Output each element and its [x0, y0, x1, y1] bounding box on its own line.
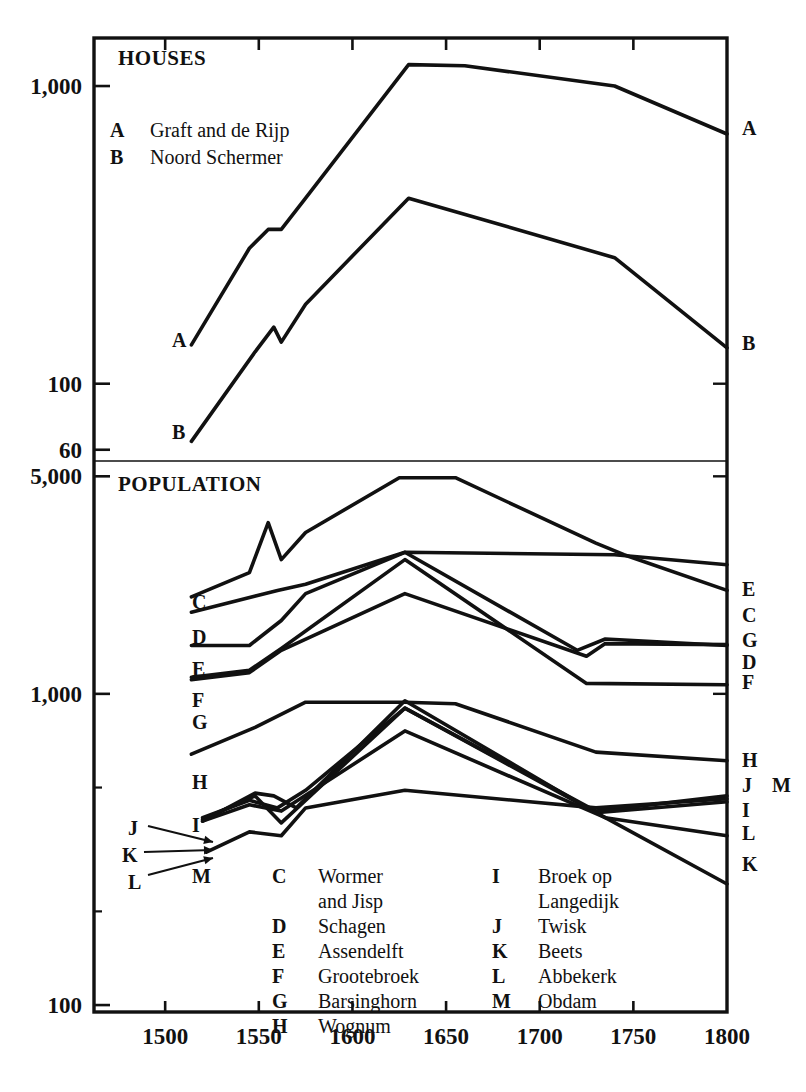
y-pop-100-label: 100 [48, 993, 83, 1018]
pop-legend-name-K: Beets [538, 941, 582, 961]
left-label-pop-M: M [192, 866, 211, 886]
pop-legend-key-D: D [272, 916, 286, 936]
x-tick-label-1800: 1800 [704, 1024, 750, 1049]
y-pop-1000-label: 1,000 [30, 682, 82, 707]
panel-title-houses: HOUSES [118, 48, 206, 69]
series-line-L [203, 731, 727, 836]
houses-legend-key-B: B [110, 147, 123, 167]
pop-legend-name-C: Wormer [318, 866, 383, 886]
left-label-pop-J: J [128, 818, 138, 838]
y-houses-1000-label: 1,000 [30, 74, 82, 99]
left-label-houses-A: A [172, 330, 186, 350]
houses-legend-name-A: Graft and de Rijp [150, 120, 289, 140]
arrow-J [148, 826, 213, 844]
right-label-pop-M: M [772, 775, 791, 795]
right-label-pop-L: L [742, 823, 755, 843]
left-label-pop-I: I [192, 815, 200, 835]
chart-figure: 15001550160016501700175018001,000100605,… [0, 0, 806, 1092]
pop-legend-key-G: G [272, 991, 288, 1011]
right-label-houses-A: A [742, 118, 756, 138]
left-label-pop-K: K [122, 845, 138, 865]
pop-legend-name-G: Barsinghorn [318, 991, 417, 1011]
y-pop-5000-label: 5,000 [30, 464, 82, 489]
pop-legend-name2-C: and Jisp [318, 891, 383, 911]
right-label-pop-G: G [742, 630, 758, 650]
left-label-pop-C: C [192, 592, 206, 612]
pop-legend-key-L: L [492, 966, 505, 986]
pop-legend-key-M: M [492, 991, 511, 1011]
left-label-pop-F: F [192, 690, 204, 710]
pop-legend-name2-I: Langedijk [538, 891, 619, 911]
pop-legend-name-H: Wognum [318, 1016, 391, 1036]
left-label-pop-E: E [192, 659, 205, 679]
right-label-pop-J: J [742, 775, 752, 795]
left-label-houses-B: B [172, 422, 185, 442]
pop-legend-key-E: E [272, 941, 285, 961]
pop-legend-name-E: Assendelft [318, 941, 404, 961]
right-label-pop-C: C [742, 605, 756, 625]
y-houses-100-label: 100 [48, 372, 83, 397]
right-label-pop-F: F [742, 672, 754, 692]
series-line-E [191, 552, 727, 645]
y-houses-60-label: 60 [59, 438, 82, 463]
pop-legend-name-F: Grootebroek [318, 966, 419, 986]
series-line-A [191, 65, 727, 345]
pop-legend-key-F: F [272, 966, 284, 986]
pop-legend-key-H: H [272, 1016, 288, 1036]
x-tick-label-1750: 1750 [610, 1024, 656, 1049]
x-tick-label-1700: 1700 [517, 1024, 563, 1049]
left-label-pop-H: H [192, 772, 208, 792]
right-label-pop-K: K [742, 854, 758, 874]
houses-legend-name-B: Noord Schermer [150, 147, 283, 167]
left-label-pop-D: D [192, 627, 206, 647]
x-tick-label-1500: 1500 [142, 1024, 188, 1049]
pop-legend-key-J: J [492, 916, 502, 936]
series-line-G [191, 594, 727, 680]
pop-legend-key-I: I [492, 866, 500, 886]
pop-legend-name-M: Obdam [538, 991, 597, 1011]
right-label-pop-I: I [742, 800, 750, 820]
x-tick-label-1650: 1650 [423, 1024, 469, 1049]
right-label-houses-B: B [742, 333, 755, 353]
houses-legend-key-A: A [110, 120, 124, 140]
arrow-K [144, 846, 213, 854]
right-label-pop-D: D [742, 652, 756, 672]
pop-legend-key-C: C [272, 866, 286, 886]
right-label-pop-E: E [742, 579, 755, 599]
pop-legend-name-L: Abbekerk [538, 966, 617, 986]
series-line-B [191, 198, 727, 441]
series-line-D [191, 552, 727, 650]
left-label-pop-L: L [128, 872, 141, 892]
pop-legend-name-I: Broek op [538, 866, 612, 886]
pop-legend-key-K: K [492, 941, 508, 961]
right-label-pop-H: H [742, 750, 758, 770]
plot-frame [94, 38, 727, 1012]
series-line-F [191, 560, 727, 685]
pop-legend-name-J: Twisk [538, 916, 587, 936]
pop-legend-name-D: Schagen [318, 916, 386, 936]
series-line-C [191, 478, 727, 597]
left-label-pop-G: G [192, 712, 208, 732]
panel-title-population: POPULATION [118, 474, 261, 495]
